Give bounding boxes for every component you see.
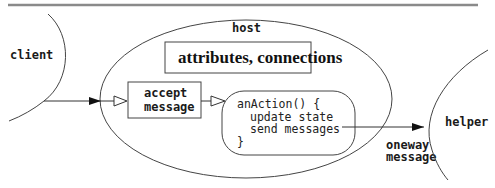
open-arrowhead-icon <box>114 96 127 106</box>
oneway-label-line2: message <box>386 150 437 164</box>
helper-label: helper <box>445 115 488 129</box>
client-boundary <box>9 14 66 121</box>
host-label: host <box>232 21 261 35</box>
action-line3: send messages <box>250 122 340 136</box>
diagram-canvas: client host attributes, connections acce… <box>0 0 495 188</box>
action-line4: } <box>237 135 244 149</box>
client-label: client <box>10 48 53 62</box>
accept-label-line1: accept <box>144 86 187 100</box>
accept-label-line2: message <box>144 100 195 114</box>
attributes-label: attributes, connections <box>178 48 343 67</box>
action-line1: anAction() { <box>237 97 320 111</box>
open-arrowhead-icon <box>211 96 225 106</box>
